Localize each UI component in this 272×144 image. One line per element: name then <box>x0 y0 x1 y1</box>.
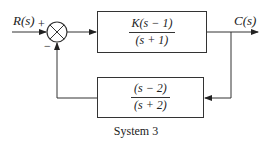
minus-sign: − <box>44 40 51 52</box>
forward-denominator: (s + 1) <box>133 33 172 48</box>
feedback-transfer-function: (s − 2) (s + 2) <box>131 82 170 113</box>
forward-numerator: K(s − 1) <box>129 17 176 33</box>
feedback-numerator: (s − 2) <box>131 82 170 98</box>
diagram-caption: System 3 <box>0 124 272 139</box>
feedback-denominator: (s + 2) <box>131 98 170 113</box>
feedback-transfer-block: (s − 2) (s + 2) <box>97 77 204 118</box>
forward-transfer-function: K(s − 1) (s + 1) <box>129 17 176 48</box>
output-label: C(s) <box>234 14 256 27</box>
forward-transfer-block: K(s − 1) (s + 1) <box>97 11 207 53</box>
feedback-branch-line <box>205 32 231 98</box>
feedback-return-line <box>57 43 97 98</box>
plus-sign: + <box>38 18 45 30</box>
input-label: R(s) <box>13 14 35 27</box>
